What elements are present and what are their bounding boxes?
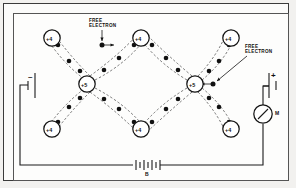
free-electron-label-left: FREE ELECTRON xyxy=(89,18,116,29)
inner-frame: .bond{fill:none;stroke:#5e5e5e;stroke-wi… xyxy=(13,13,289,181)
positive-terminal-label: + xyxy=(271,72,276,80)
negative-terminal-label: – xyxy=(28,73,32,81)
lattice-diagram: .bond{fill:none;stroke:#5e5e5e;stroke-wi… xyxy=(14,14,288,180)
atom-bot-left-label: +4 xyxy=(46,126,52,134)
figure-root: .bond{fill:none;stroke:#5e5e5e;stroke-wi… xyxy=(0,0,296,188)
atom-top-left-label: +4 xyxy=(46,35,52,43)
atom-bot-right-label: +4 xyxy=(225,126,231,134)
free-electron-right-dot xyxy=(211,82,216,87)
free-electron-label-right: FREE ELECTRON xyxy=(245,44,272,55)
atom-top-mid-label: +4 xyxy=(135,35,141,43)
atom-bot-mid-label: +4 xyxy=(135,126,141,134)
atom-core-right-label: +5 xyxy=(189,81,195,89)
free-electron-left-dot xyxy=(100,43,105,48)
battery-label: B xyxy=(145,171,149,177)
atom-top-right-label: +4 xyxy=(225,35,231,43)
outer-frame: .bond{fill:none;stroke:#5e5e5e;stroke-wi… xyxy=(3,3,289,181)
atom-core-left-label: +5 xyxy=(81,81,87,89)
meter-label: M xyxy=(275,110,279,116)
